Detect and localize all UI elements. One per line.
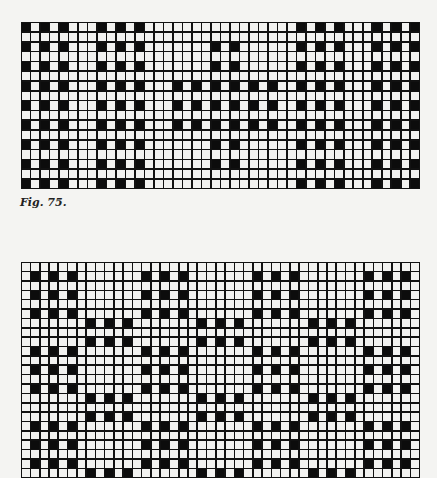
grid-cell	[402, 101, 410, 109]
grid-cell	[41, 43, 49, 51]
grid-cell	[107, 170, 115, 178]
grid-cell	[198, 394, 206, 402]
grid-cell	[309, 300, 317, 308]
grid-cell	[174, 43, 182, 51]
grid-cell	[346, 338, 354, 346]
grid-cell	[78, 300, 86, 308]
grid-cell	[87, 375, 95, 383]
grid-cell	[281, 272, 289, 280]
grid-cell	[345, 141, 353, 149]
grid-cell	[174, 121, 182, 129]
grid-cell	[374, 310, 382, 318]
grid-cell	[41, 375, 49, 383]
grid-cell	[107, 131, 115, 139]
grid-cell	[105, 272, 113, 280]
grid-cell	[88, 72, 96, 80]
grid-cell	[346, 366, 354, 374]
grid-cell	[79, 92, 87, 100]
grid-cell	[183, 160, 191, 168]
grid-cell	[88, 111, 96, 119]
grid-cell	[263, 413, 271, 421]
grid-cell	[142, 319, 150, 327]
grid-cell	[240, 23, 248, 31]
grid-cell	[59, 310, 67, 318]
grid-cell	[356, 413, 364, 421]
grid-cell	[307, 52, 315, 60]
grid-cell	[207, 441, 215, 449]
grid-cell	[300, 441, 308, 449]
grid-cell	[68, 263, 76, 271]
grid-cell	[365, 432, 373, 440]
grid-cell	[402, 450, 410, 458]
grid-cell	[217, 282, 225, 290]
grid-cell	[41, 413, 49, 421]
grid-cell	[411, 52, 419, 60]
grid-cell	[373, 92, 381, 100]
grid-cell	[183, 92, 191, 100]
grid-cell	[142, 263, 150, 271]
grid-cell	[411, 82, 419, 90]
grid-cell	[259, 43, 267, 51]
grid-cell	[98, 72, 106, 80]
grid-cell	[60, 23, 68, 31]
grid-cell	[115, 338, 123, 346]
grid-cell	[124, 272, 132, 280]
grid-cell	[189, 413, 197, 421]
grid-cell	[87, 291, 95, 299]
grid-cell	[356, 300, 364, 308]
grid-cell	[291, 300, 299, 308]
grid-cell	[278, 170, 286, 178]
grid-cell	[115, 394, 123, 402]
grid-cell	[281, 366, 289, 374]
grid-cell	[133, 300, 141, 308]
grid-cell	[133, 347, 141, 355]
grid-cell	[244, 441, 252, 449]
grid-cell	[78, 291, 86, 299]
grid-cell	[373, 101, 381, 109]
grid-cell	[288, 180, 296, 188]
grid-cell	[278, 43, 286, 51]
grid-cell	[133, 432, 141, 440]
grid-cell	[183, 141, 191, 149]
grid-cell	[60, 92, 68, 100]
grid-cell	[87, 300, 95, 308]
grid-cell	[155, 141, 163, 149]
grid-cell	[22, 329, 30, 337]
grid-cell	[411, 338, 419, 346]
grid-cell	[281, 413, 289, 421]
grid-cell	[354, 62, 362, 70]
grid-cell	[226, 272, 234, 280]
grid-cell	[326, 160, 334, 168]
grid-cell	[79, 72, 87, 80]
grid-cell	[115, 441, 123, 449]
grid-cell	[392, 33, 400, 41]
grid-cell	[41, 111, 49, 119]
grid-cell	[244, 394, 252, 402]
grid-cell	[105, 300, 113, 308]
grid-cell	[356, 422, 364, 430]
grid-cell	[133, 413, 141, 421]
grid-cell	[356, 282, 364, 290]
grid-cell	[126, 111, 134, 119]
grid-cell	[328, 319, 336, 327]
grid-cell	[68, 329, 76, 337]
grid-cell	[87, 413, 95, 421]
grid-cell	[164, 121, 172, 129]
grid-cell	[328, 272, 336, 280]
grid-cell	[392, 160, 400, 168]
grid-cell	[278, 62, 286, 70]
grid-cell	[254, 432, 262, 440]
grid-cell	[198, 366, 206, 374]
grid-cell	[244, 422, 252, 430]
grid-cell	[189, 329, 197, 337]
grid-cell	[383, 62, 391, 70]
grid-cell	[411, 121, 419, 129]
grid-cell	[59, 469, 67, 477]
grid-cell	[346, 291, 354, 299]
grid-cell	[98, 131, 106, 139]
grid-cell	[326, 82, 334, 90]
grid-cell	[212, 170, 220, 178]
grid-cell	[411, 385, 419, 393]
grid-cell	[244, 347, 252, 355]
grid-cell	[240, 52, 248, 60]
